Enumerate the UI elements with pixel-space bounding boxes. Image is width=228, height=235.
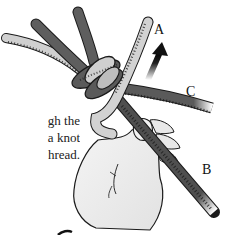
cord-c [120, 88, 212, 112]
hand [74, 119, 180, 230]
caption-line-3: hread. [0, 146, 80, 163]
label-c: C [186, 84, 195, 100]
caption-text: gh the a knot hread. [0, 112, 80, 163]
caption-line-1: gh the [0, 112, 80, 129]
label-a: A [154, 22, 164, 38]
label-b: B [202, 162, 211, 178]
caption-line-2: a knot [0, 129, 80, 146]
arrow-up-icon [148, 42, 168, 80]
cropped-mark [58, 231, 72, 235]
cord-ends-top-left [6, 12, 94, 73]
